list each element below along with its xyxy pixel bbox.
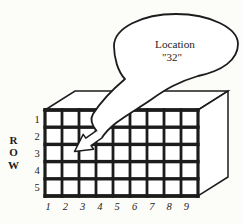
box-right-face [198, 91, 228, 196]
col-label-9: 9 [184, 201, 190, 212]
column-divider [163, 108, 166, 198]
callout-line2: "32" [162, 51, 182, 63]
row-label-5: 5 [34, 182, 39, 193]
row-shelf [43, 194, 199, 198]
row-axis-letter: R [10, 134, 19, 146]
row-label-3: 3 [34, 148, 39, 159]
col-label-3: 3 [79, 201, 85, 212]
row-axis-letter: O [9, 146, 18, 158]
col-label-8: 8 [166, 201, 172, 212]
row-shelf [43, 126, 199, 129]
row-label-1: 1 [34, 114, 39, 125]
column-divider [196, 108, 199, 198]
row-axis-label: R O W [8, 134, 19, 171]
col-label-6: 6 [132, 201, 138, 212]
column-divider [61, 108, 64, 198]
col-label-2: 2 [63, 201, 69, 212]
memory-location-figure: R O W 12345 123456789 Location "32" [0, 0, 242, 224]
column-divider [78, 108, 81, 198]
column-divider [146, 108, 149, 198]
callout-line1: Location [155, 38, 195, 50]
row-shelf [43, 143, 199, 146]
row-label-4: 4 [34, 165, 40, 176]
box-front-face [45, 110, 198, 196]
row-label-2: 2 [34, 131, 39, 142]
memory-location-diagram: R O W 12345 123456789 Location "32" [0, 0, 242, 224]
column-divider [43, 108, 46, 198]
row-labels: 12345 [34, 114, 40, 194]
col-label-4: 4 [97, 201, 103, 212]
col-label-7: 7 [149, 201, 155, 212]
row-axis-letter: W [8, 159, 19, 171]
row-shelf [43, 177, 199, 180]
column-labels: 123456789 [45, 201, 189, 212]
col-label-5: 5 [115, 201, 120, 212]
column-divider [129, 108, 132, 198]
col-label-1: 1 [45, 201, 50, 212]
column-divider [180, 108, 183, 198]
row-shelf [43, 160, 199, 163]
